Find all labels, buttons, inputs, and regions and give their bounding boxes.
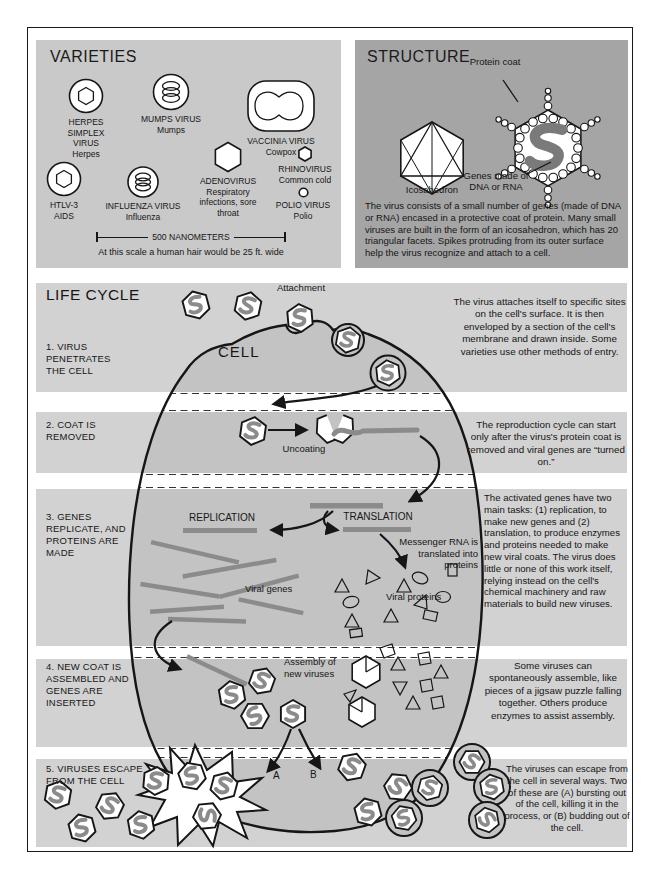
step2-description: The reproduction cycle can start only af… bbox=[467, 419, 625, 469]
viral-proteins-label: Viral proteins bbox=[386, 591, 450, 603]
infographic-page: VARIETIES HERPES SIMPLEX VIRUS Herpes MU… bbox=[0, 0, 660, 876]
attachment-label: Attachment bbox=[262, 282, 340, 294]
assembly-label: Assembly of new viruses bbox=[284, 656, 348, 680]
mrna-label: Messenger RNA is translated into protein… bbox=[398, 536, 478, 571]
step5-label: 5. VIRUSES ESCAPE FROM THE CELL bbox=[46, 763, 174, 787]
step3-description: The activated genes have two main tasks:… bbox=[484, 492, 624, 610]
life-cycle-title: LIFE CYCLE bbox=[46, 286, 140, 304]
step3-label: 3. GENES REPLICATE, AND PROTEINS ARE MAD… bbox=[46, 511, 142, 559]
virus-in-vesicle bbox=[371, 356, 406, 391]
step4-label: 4. NEW COAT IS ASSEMBLED AND GENES ARE I… bbox=[46, 661, 138, 709]
path-b-label: B bbox=[310, 769, 317, 780]
replication-label: REPLICATION bbox=[184, 512, 260, 523]
cell-label: CELL bbox=[218, 343, 260, 360]
step1-label: 1. VIRUS PENETRATES THE CELL bbox=[46, 341, 128, 377]
path-a-label: A bbox=[273, 770, 280, 781]
translation-gene-bar bbox=[343, 527, 411, 532]
step2-label: 2. COAT IS REMOVED bbox=[46, 419, 138, 443]
step1-description: The virus attaches itself to specific si… bbox=[452, 296, 627, 358]
replication-gene-bar bbox=[183, 528, 257, 533]
virus-icon bbox=[233, 290, 262, 322]
viral-genes-label: Viral genes bbox=[245, 583, 305, 595]
virus-icon bbox=[181, 288, 212, 321]
activated-gene-bar bbox=[310, 503, 383, 509]
step4-description: Some viruses can spontaneously assemble,… bbox=[483, 660, 623, 722]
enveloped-virus bbox=[332, 324, 364, 356]
step5-description: The viruses can escape from the cell in … bbox=[504, 763, 630, 834]
uncoating-label: Uncoating bbox=[272, 443, 336, 455]
translation-label: TRANSLATION bbox=[342, 511, 414, 522]
virus-icon bbox=[281, 700, 305, 728]
